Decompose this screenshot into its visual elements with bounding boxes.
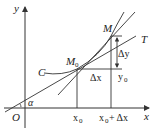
y-axis-label: y xyxy=(13,2,19,14)
y0-label: y xyxy=(118,71,123,82)
m-label: M xyxy=(102,22,113,34)
x0-label: x xyxy=(73,112,78,123)
curve-label: C xyxy=(38,66,46,78)
x0-dx-rest: + Δx xyxy=(109,112,128,123)
m0-sub: 0 xyxy=(75,61,79,69)
delta-y-label: Δy xyxy=(118,48,129,59)
origin-label: O xyxy=(12,111,20,123)
y0-sub: 0 xyxy=(124,76,128,84)
x-axis-label: x xyxy=(143,110,149,122)
tangent-diagram: y x O α C M 0 M T Δy Δx y 0 x 0 x 0 + Δx xyxy=(0,0,155,136)
tangent-label: T xyxy=(141,33,148,45)
x0-dx-label: x xyxy=(99,112,104,123)
angle-label: α xyxy=(28,97,34,108)
x0-sub: 0 xyxy=(79,117,83,125)
angle-arc xyxy=(20,104,21,107)
delta-x-label: Δx xyxy=(90,72,101,83)
